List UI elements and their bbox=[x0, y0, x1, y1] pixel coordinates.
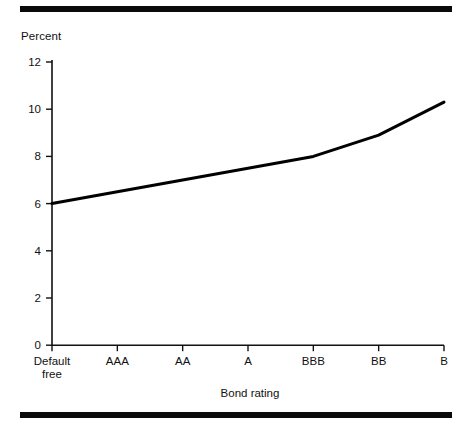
y-tick-label: 8 bbox=[35, 150, 41, 162]
x-axis-title: Bond rating bbox=[221, 387, 280, 399]
x-axis-ticks: DefaultfreeAAAAAABBBBBB bbox=[34, 345, 448, 380]
y-tick-label: 4 bbox=[35, 245, 42, 257]
y-tick-label: 10 bbox=[28, 103, 41, 115]
y-tick-label: 6 bbox=[35, 198, 41, 210]
y-tick-label: 2 bbox=[35, 292, 41, 304]
y-tick-label: 0 bbox=[35, 339, 41, 351]
plot-area: 024681012 DefaultfreeAAAAAABBBBBB Bond r… bbox=[0, 0, 470, 430]
x-tick-label: AA bbox=[175, 355, 191, 367]
x-tick-label: AAA bbox=[106, 355, 129, 367]
chart-figure: Percent 024681012 DefaultfreeAAAAAABBBBB… bbox=[0, 0, 470, 430]
x-tick-label: B bbox=[440, 355, 448, 367]
y-axis-ticks: 024681012 bbox=[28, 56, 52, 351]
data-series-line bbox=[52, 102, 444, 203]
y-tick-label: 12 bbox=[28, 56, 41, 68]
x-tick-label: Defaultfree bbox=[34, 355, 71, 380]
x-tick-label: BB bbox=[371, 355, 387, 367]
x-tick-label: BBB bbox=[302, 355, 325, 367]
x-tick-label: A bbox=[244, 355, 252, 367]
